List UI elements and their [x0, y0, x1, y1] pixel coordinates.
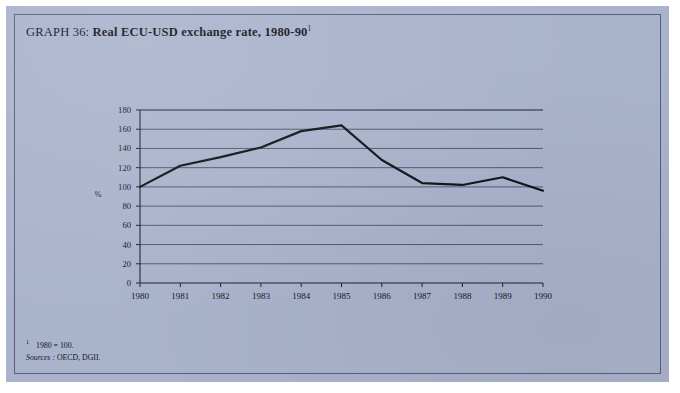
svg-text:1986: 1986	[373, 291, 392, 301]
footnote-text: 1980 = 100.	[36, 341, 74, 350]
svg-text:1987: 1987	[413, 291, 432, 301]
footnote-sources: Sources : OECD, DGII.	[26, 353, 100, 362]
svg-text:1983: 1983	[252, 291, 271, 301]
chart-plot-area: 020406080100120140160180 198019811982198…	[6, 6, 669, 382]
svg-text:140: 140	[118, 143, 131, 153]
y-axis-tick-labels: 020406080100120140160180	[118, 105, 140, 288]
y-axis-label: %	[95, 190, 102, 199]
gridlines-group	[140, 110, 543, 264]
svg-text:80: 80	[122, 201, 131, 211]
svg-text:20: 20	[122, 259, 131, 269]
svg-text:1980: 1980	[131, 291, 150, 301]
svg-text:1989: 1989	[494, 291, 513, 301]
sources-value: OECD, DGII.	[57, 353, 101, 362]
svg-text:160: 160	[118, 124, 131, 134]
svg-text:1984: 1984	[292, 291, 311, 301]
svg-text:1982: 1982	[212, 291, 230, 301]
svg-text:100: 100	[118, 182, 131, 192]
svg-text:120: 120	[118, 163, 131, 173]
svg-text:0: 0	[127, 278, 131, 288]
svg-text:40: 40	[122, 240, 131, 250]
svg-text:1981: 1981	[171, 291, 189, 301]
sources-label: Sources :	[26, 353, 55, 362]
x-axis-tick-labels: 1980198119821983198419851986198719881989…	[131, 291, 553, 301]
data-series-line	[140, 125, 543, 190]
footnote-marker: 1	[26, 339, 29, 345]
x-axis-ticks	[140, 283, 543, 287]
chart-page: GRAPH 36: Real ECU-USD exchange rate, 19…	[6, 6, 669, 382]
svg-text:1985: 1985	[333, 291, 352, 301]
svg-text:1990: 1990	[534, 291, 553, 301]
footnote-note: 11980 = 100.	[26, 339, 74, 350]
svg-text:180: 180	[118, 105, 131, 115]
line-chart-svg: 020406080100120140160180 198019811982198…	[6, 6, 669, 382]
svg-text:60: 60	[122, 220, 131, 230]
svg-text:1988: 1988	[453, 291, 472, 301]
